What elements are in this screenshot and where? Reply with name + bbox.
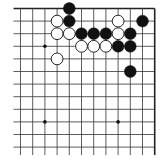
white-stone <box>76 40 88 52</box>
black-stone <box>88 28 100 40</box>
black-stone <box>100 28 112 40</box>
white-stone <box>112 28 124 40</box>
black-stone <box>76 28 88 40</box>
white-stone <box>63 28 75 40</box>
stones-layer <box>51 3 148 78</box>
white-stone <box>88 40 100 52</box>
black-stone <box>137 15 149 27</box>
black-stone <box>124 40 136 52</box>
hoshi-point <box>43 120 47 124</box>
white-stone <box>100 40 112 52</box>
white-stone <box>51 15 63 27</box>
black-stone <box>112 40 124 52</box>
white-stone <box>112 15 124 27</box>
black-stone <box>124 28 136 40</box>
white-stone <box>51 53 63 65</box>
black-stone <box>63 15 75 27</box>
black-stone <box>124 66 136 78</box>
go-board <box>0 0 166 160</box>
hoshi-point <box>116 120 120 124</box>
hoshi-point <box>43 45 47 49</box>
black-stone <box>63 3 75 15</box>
white-stone <box>51 28 63 40</box>
